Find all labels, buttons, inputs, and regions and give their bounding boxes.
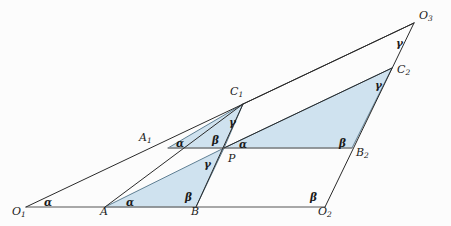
point-label-C2: C2 [397,64,410,77]
point-label-O3: O3 [419,10,433,23]
point-label-A: A [100,206,108,217]
point-subscript: 1 [238,90,243,99]
point-letter: B [191,205,199,218]
triangle-A-B-P [105,148,224,207]
angle-beta-at-P: β [212,135,219,146]
angle-alpha-at-A: α [126,197,134,208]
angle-beta-at-O2: β [310,192,317,203]
point-label-A1: A1 [139,132,152,145]
angle-alpha-at-A1: α [176,138,184,149]
angle-gamma-at-C2: γ [375,80,382,91]
angle-gamma-at-C1: γ [229,117,236,128]
point-label-B2: B2 [356,147,369,160]
point-subscript: 2 [405,68,410,77]
angle-alpha-at-O1: α [44,197,52,208]
point-label-B: B [191,206,199,217]
angle-gamma-at-P: γ [204,159,211,170]
point-label-P: P [228,153,235,164]
point-letter: A [139,131,147,144]
point-label-O2: O2 [318,206,332,219]
point-letter: A [100,205,108,218]
segment-C1-O3 [243,23,414,104]
angle-beta-at-B: β [185,192,192,203]
point-letter: O [12,205,21,218]
angle-beta-at-B2: β [339,138,346,149]
point-letter: O [419,9,428,22]
point-label-C1: C1 [230,86,243,99]
geometry-figure [0,0,451,226]
point-label-O1: O1 [12,206,26,219]
diagram-canvas: O1ABO2A1PB2C1C2O3ααββαβαγβγγγ [0,0,451,226]
angle-alpha-at-P: α [239,139,247,150]
point-subscript: 3 [428,14,433,23]
point-subscript: 1 [21,210,26,219]
point-letter: B [356,146,364,159]
point-subscript: 2 [327,210,332,219]
point-subscript: 2 [364,151,369,160]
point-subscript: 1 [147,136,152,145]
angle-gamma-at-O3: γ [396,38,403,49]
point-letter: P [228,152,235,165]
point-letter: O [318,205,327,218]
